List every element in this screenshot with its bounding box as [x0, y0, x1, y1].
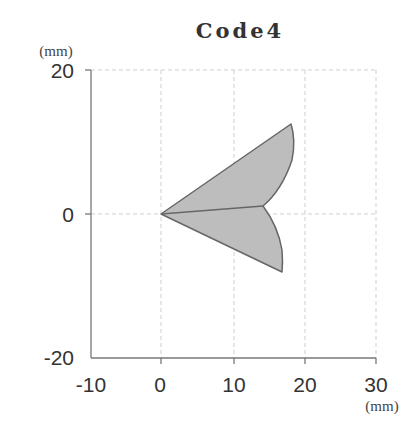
y-tick-labels: 20 0 -20 — [44, 59, 74, 369]
shape — [161, 124, 294, 272]
svg-text:-20: -20 — [44, 346, 74, 369]
x-axis-unit: (mm) — [365, 398, 398, 415]
chart-title: Code4 — [196, 18, 284, 43]
svg-text:30: 30 — [364, 373, 387, 396]
x-tick-labels: -10 0 10 20 30 — [76, 373, 388, 396]
y-axis-unit: (mm) — [39, 43, 72, 60]
chart: Code4 (mm) 20 0 -20 -10 0 10 20 30 (mm) — [0, 0, 414, 439]
svg-text:-10: -10 — [76, 373, 106, 396]
svg-text:20: 20 — [51, 59, 74, 82]
svg-text:10: 10 — [222, 373, 245, 396]
svg-text:0: 0 — [62, 203, 74, 226]
svg-text:20: 20 — [293, 373, 316, 396]
svg-text:0: 0 — [154, 373, 166, 396]
